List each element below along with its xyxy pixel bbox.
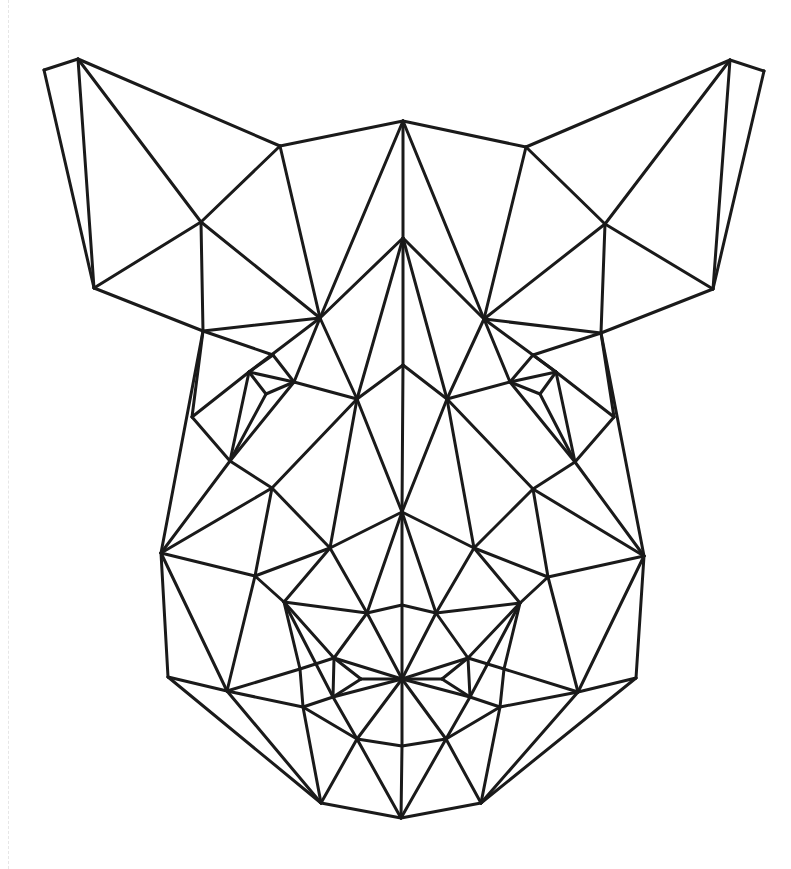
mesh-edge-L3-L4 bbox=[192, 417, 230, 461]
mesh-edge-lE3-T bbox=[280, 121, 403, 146]
mesh-edge-R17-R18 bbox=[446, 739, 481, 803]
mesh-edge-L5-L7 bbox=[161, 488, 272, 553]
mesh-edge-L1-LN bbox=[203, 318, 320, 331]
mesh-edge-Le4-L4 bbox=[230, 394, 266, 461]
mesh-edge-L17-C5 bbox=[357, 739, 401, 818]
mesh-edge-R3-R4 bbox=[575, 417, 614, 462]
mesh-edge-rE3-RN bbox=[484, 147, 526, 319]
page-edge-guide-line bbox=[8, 0, 9, 869]
mesh-edge-Re1-Re2 bbox=[533, 355, 556, 372]
mesh-edge-lE3-lE4 bbox=[201, 146, 280, 222]
boar-head-line-drawing bbox=[0, 0, 791, 869]
mesh-edge-rE4-RN bbox=[484, 224, 605, 319]
mesh-edge-Le1-Le2 bbox=[249, 355, 273, 372]
mesh-edge-Re4-R4 bbox=[540, 394, 575, 462]
mesh-edge-R10-R15 bbox=[468, 658, 470, 697]
mesh-edge-L11-L14 bbox=[227, 669, 300, 691]
mesh-edge-L5-L8 bbox=[255, 488, 272, 576]
mesh-edge-lE5-L1 bbox=[94, 288, 203, 331]
mesh-edge-M-R2 bbox=[403, 238, 447, 399]
mesh-edge-Le3-L2 bbox=[294, 382, 357, 399]
mesh-edge-lE2-lE4 bbox=[78, 59, 201, 222]
mesh-edge-L5-L6 bbox=[272, 488, 330, 548]
mesh-edge-L11-L16 bbox=[300, 669, 303, 707]
mesh-edge-lE1-lE2 bbox=[44, 59, 78, 70]
mesh-edge-L7-L13 bbox=[161, 553, 168, 677]
mesh-edge-R17-C4 bbox=[402, 739, 446, 746]
mesh-edge-L17-C4 bbox=[357, 739, 402, 746]
mesh-edge-R18-C5 bbox=[401, 803, 481, 818]
mesh-edge-R1-Re1 bbox=[533, 333, 601, 355]
mesh-edge-R11-R14 bbox=[504, 669, 578, 692]
mesh-edge-lE4-lE5 bbox=[94, 222, 201, 288]
mesh-edge-L2-C2 bbox=[357, 399, 402, 512]
mesh-edge-R8-R14 bbox=[548, 577, 578, 692]
mesh-edge-R9-N3 bbox=[436, 603, 520, 613]
mesh-edge-L6-N1 bbox=[330, 548, 367, 613]
mesh-edge-R11-R16 bbox=[500, 669, 504, 707]
mesh-edge-L1-Le1 bbox=[203, 331, 273, 355]
mesh-edge-L8-L14 bbox=[227, 576, 255, 691]
mesh-edge-Re3-R2 bbox=[447, 382, 510, 399]
mesh-edge-N1-N2 bbox=[367, 605, 402, 613]
mesh-edge-rE2-rE3 bbox=[526, 60, 730, 147]
mesh-edge-R7-R14 bbox=[578, 556, 644, 692]
mesh-edge-R5-R8 bbox=[533, 489, 548, 577]
mesh-edge-R7-R8 bbox=[548, 556, 644, 577]
mesh-edge-lE2-lE3 bbox=[78, 59, 280, 146]
mesh-edge-L15-L16 bbox=[303, 697, 333, 707]
mesh-edge-rE3-T bbox=[403, 121, 526, 147]
mesh-edge-rE1-rE2 bbox=[730, 60, 764, 71]
mesh-edge-C4-C5 bbox=[401, 746, 402, 818]
mesh-edge-L7-L8 bbox=[161, 553, 255, 576]
mesh-edge-rE4-rE5 bbox=[605, 224, 713, 289]
boar-head-artwork bbox=[0, 0, 791, 869]
mesh-edge-R6-N3 bbox=[436, 548, 474, 613]
mesh-edge-rE3-rE4 bbox=[526, 147, 605, 224]
mesh-edge-L4-L5 bbox=[230, 461, 272, 488]
mesh-edge-T-LN bbox=[320, 121, 403, 318]
mesh-edge-R5-R7 bbox=[533, 489, 644, 556]
mesh-edge-rE4-R1 bbox=[601, 224, 605, 333]
mesh-edge-N3-R10 bbox=[436, 613, 468, 658]
mesh-edge-R8-R9 bbox=[520, 577, 548, 603]
mesh-edge-T-RN bbox=[403, 121, 484, 319]
mesh-edge-L7-L14 bbox=[161, 553, 227, 691]
mesh-edge-N2-N3 bbox=[402, 605, 436, 613]
mesh-edge-R7-R13 bbox=[636, 556, 644, 678]
mesh-edge-R1-R7 bbox=[601, 333, 644, 556]
mesh-edge-LN-L2 bbox=[320, 318, 357, 399]
mesh-edge-RN-R2 bbox=[447, 319, 484, 399]
mesh-edge-L4-L7 bbox=[161, 461, 230, 553]
mesh-edge-L9-N1 bbox=[284, 602, 367, 613]
mesh-edge-R4-R5 bbox=[533, 462, 575, 489]
mesh-edge-R5-R6 bbox=[474, 489, 533, 548]
mesh-edge-rE5-R1 bbox=[601, 289, 713, 333]
mesh-edge-L8-L9 bbox=[255, 576, 284, 602]
mesh-edge-rE2-rE4 bbox=[605, 60, 730, 224]
mesh-edge-lE4-L1 bbox=[201, 222, 203, 331]
mesh-edge-N1-L10 bbox=[334, 613, 367, 658]
mesh-edge-L18-C5 bbox=[321, 803, 401, 818]
mesh-edge-L10-L15 bbox=[333, 658, 334, 697]
mesh-edge-R15-R16 bbox=[470, 697, 500, 707]
mesh-edge-L1-L7 bbox=[161, 331, 203, 553]
mesh-edge-L17-L18 bbox=[321, 739, 357, 803]
mesh-edge-R2-C2 bbox=[402, 399, 447, 512]
mesh-edge-C1-C2 bbox=[402, 365, 403, 512]
mesh-edge-R17-C5 bbox=[401, 739, 446, 818]
